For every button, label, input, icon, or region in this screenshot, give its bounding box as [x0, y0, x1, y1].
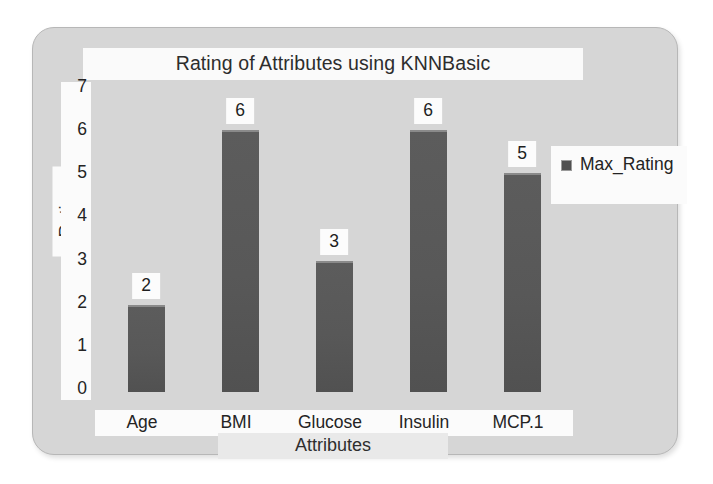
chart-title: Rating of Attributes using KNNBasic — [83, 48, 583, 80]
y-axis-tick-5: 5 — [63, 162, 87, 183]
legend-color-swatch-icon — [561, 160, 572, 171]
x-axis-title: Attributes — [218, 433, 448, 459]
bar-group: 2 — [99, 86, 193, 392]
y-axis-tick-3: 3 — [63, 248, 87, 269]
chart-legend: Max_Rating — [551, 146, 687, 204]
chart-frame: Rating of Attributes using KNNBasic Rati… — [32, 27, 678, 455]
bar-group: 3 — [287, 86, 381, 392]
bar-group: 6 — [193, 86, 287, 392]
bar-value-label: 3 — [320, 229, 348, 255]
bar-glucose[interactable] — [316, 261, 353, 392]
x-axis-tick-insulin: Insulin — [377, 412, 471, 433]
y-axis-tick-7: 7 — [63, 76, 87, 97]
bar-group: 6 — [381, 86, 475, 392]
x-axis-tick-mcp-1: MCP.1 — [471, 412, 565, 433]
x-axis-tick-bmi: BMI — [189, 412, 283, 433]
y-axis-tick-4: 4 — [63, 205, 87, 226]
y-axis-tick-0: 0 — [63, 378, 87, 399]
legend-entry-label: Max_Rating — [580, 155, 673, 174]
bar-value-label: 2 — [132, 273, 160, 299]
bar-value-label: 6 — [226, 98, 254, 124]
bars-layer: 26365 — [99, 86, 569, 392]
y-axis-tick-1: 1 — [63, 334, 87, 355]
y-axis-tick-6: 6 — [63, 119, 87, 140]
bar-value-label: 6 — [414, 98, 442, 124]
bar-group: 5 — [475, 86, 569, 392]
x-axis-tick-age: Age — [95, 412, 189, 433]
y-axis-tick-2: 2 — [63, 291, 87, 312]
bar-mcp-1[interactable] — [504, 173, 541, 392]
bar-value-label: 5 — [508, 141, 536, 167]
bar-age[interactable] — [128, 305, 165, 392]
plot-area: Rating of Attributes using KNNBasic Rati… — [33, 28, 677, 454]
bar-insulin[interactable] — [410, 130, 447, 392]
bar-bmi[interactable] — [222, 130, 259, 392]
x-axis-tick-glucose: Glucose — [283, 412, 377, 433]
y-axis-tick-labels: 01234567 — [61, 82, 91, 400]
